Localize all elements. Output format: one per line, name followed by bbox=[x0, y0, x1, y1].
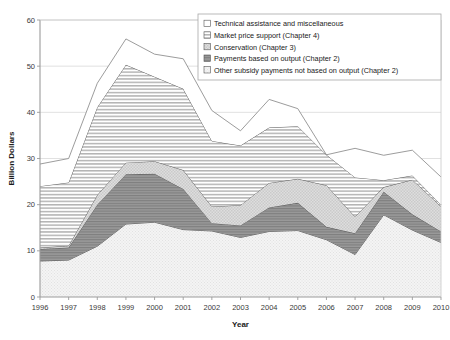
y-tick-label: 50 bbox=[27, 62, 35, 71]
x-tick-label: 2008 bbox=[375, 303, 392, 312]
y-tick-label: 60 bbox=[27, 16, 35, 25]
legend-label: Conservation (Chapter 3) bbox=[214, 43, 296, 52]
x-tick-label: 1996 bbox=[32, 303, 49, 312]
legend-label: Market price support (Chapter 4) bbox=[214, 31, 319, 40]
x-tick-label: 2009 bbox=[404, 303, 421, 312]
x-tick-label: 1998 bbox=[89, 303, 106, 312]
y-tick-label: 30 bbox=[27, 154, 35, 163]
x-tick-label: 1999 bbox=[118, 303, 135, 312]
y-tick-label: 0 bbox=[31, 293, 35, 302]
y-tick-label: 20 bbox=[27, 200, 35, 209]
x-tick-label: 2003 bbox=[232, 303, 249, 312]
stacked-area-chart: 0102030405060 19961997199819992000200120… bbox=[0, 0, 450, 340]
legend-swatch bbox=[204, 32, 210, 38]
x-tick-label: 2001 bbox=[175, 303, 192, 312]
legend-label: Other subsidy payments not based on outp… bbox=[214, 66, 398, 75]
legend-swatch bbox=[204, 43, 210, 49]
x-tick-label: 2006 bbox=[318, 303, 335, 312]
x-tick-label: 2010 bbox=[433, 303, 450, 312]
x-tick-label: 2005 bbox=[289, 303, 306, 312]
legend-swatch bbox=[204, 67, 210, 73]
legend-swatch bbox=[204, 55, 210, 61]
legend-swatch bbox=[204, 20, 210, 26]
y-tick-label: 40 bbox=[27, 108, 35, 117]
legend-label: Technical assistance and miscellaneous bbox=[214, 19, 344, 28]
chart-container: 0102030405060 19961997199819992000200120… bbox=[0, 0, 450, 340]
x-tick-label: 2004 bbox=[261, 303, 278, 312]
x-tick-label: 1997 bbox=[60, 303, 77, 312]
x-tick-label: 2000 bbox=[146, 303, 163, 312]
legend-label: Payments based on output (Chapter 2) bbox=[214, 54, 340, 63]
x-tick-label: 2002 bbox=[204, 303, 221, 312]
x-tick-label: 2007 bbox=[347, 303, 364, 312]
y-axis-title: Billion Dollars bbox=[7, 131, 16, 185]
y-tick-labels: 0102030405060 bbox=[27, 16, 40, 302]
chart-legend: Technical assistance and miscellaneousMa… bbox=[198, 14, 441, 80]
x-tick-labels: 1996199719981999200020012002200320042005… bbox=[32, 297, 450, 312]
y-tick-label: 10 bbox=[27, 246, 35, 255]
x-axis-title: Year bbox=[232, 320, 249, 329]
